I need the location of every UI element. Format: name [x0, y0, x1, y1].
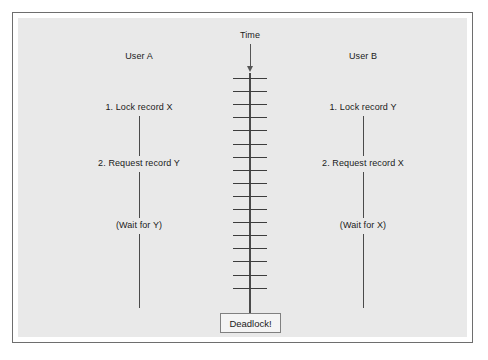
- user-a-lifeline-segment-3: [139, 234, 140, 308]
- diagram-panel: Time User A User B 1. Lock record X 2. R…: [18, 18, 467, 337]
- time-tick-15: [233, 261, 267, 262]
- column-header-user-a: User A: [125, 51, 153, 62]
- user-b-lifeline-segment-2: [363, 172, 364, 218]
- user-b-lifeline-segment-1: [363, 116, 364, 156]
- user-b-lifeline-segment-3: [363, 234, 364, 308]
- column-header-user-b: User B: [349, 51, 377, 62]
- time-tick-17: [233, 288, 267, 289]
- time-tick-6: [233, 144, 267, 145]
- time-tick-2: [233, 91, 267, 92]
- time-tick-10: [233, 196, 267, 197]
- time-tick-11: [233, 209, 267, 210]
- user-b-step-3: (Wait for X): [340, 220, 386, 231]
- user-b-step-1: 1. Lock record Y: [330, 102, 397, 113]
- time-tick-3: [233, 104, 267, 105]
- time-tick-5: [233, 130, 267, 131]
- user-a-step-2: 2. Request record Y: [98, 158, 180, 169]
- time-tick-4: [233, 117, 267, 118]
- time-tick-12: [233, 222, 267, 223]
- user-a-lifeline-segment-1: [139, 116, 140, 156]
- time-tick-8: [233, 170, 267, 171]
- time-axis-line: [249, 73, 251, 313]
- arrow-down-icon: [247, 66, 253, 72]
- time-axis-label: Time: [240, 30, 260, 41]
- deadlock-status-badge: Deadlock!: [220, 313, 281, 333]
- figure-frame: Time User A User B 1. Lock record X 2. R…: [12, 12, 473, 343]
- time-tick-9: [233, 183, 267, 184]
- time-tick-14: [233, 248, 267, 249]
- time-tick-13: [233, 235, 267, 236]
- time-tick-16: [233, 275, 267, 276]
- user-a-step-3: (Wait for Y): [116, 220, 162, 231]
- user-b-step-2: 2. Request record X: [322, 158, 404, 169]
- time-tick-1: [233, 78, 267, 79]
- user-a-lifeline-segment-2: [139, 172, 140, 218]
- time-tick-7: [233, 157, 267, 158]
- user-a-step-1: 1. Lock record X: [105, 102, 172, 113]
- time-axis-stem: [250, 44, 251, 67]
